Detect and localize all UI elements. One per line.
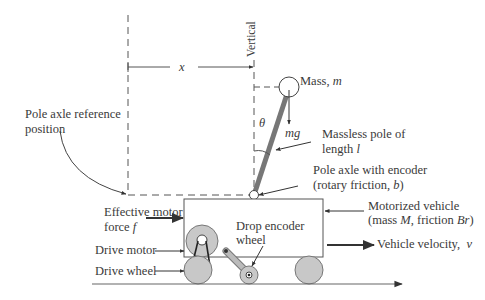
reference-leader [60,131,126,194]
pole-axle-label: Pole axle with encoder (rotary friction,… [313,163,427,193]
inverted-pendulum-diagram [0,0,485,300]
theta-label: θ [259,117,265,130]
encoder-pivot [224,249,228,253]
rear-wheel [295,256,323,284]
effective-motor-force-label: Effective motor force f [104,205,183,235]
drive-wheel [184,256,212,284]
mg-label: mg [285,127,300,140]
motorized-vehicle-label: Motorized vehicle (mass M, friction Br) [368,199,474,227]
vehicle-velocity-label: Vehicle velocity, v [377,238,472,251]
drop-encoder-label: Drop encoder wheel [236,219,304,247]
pole-leader [276,142,311,150]
pole [254,88,289,195]
drive-motor-label: Drive motor [95,244,156,257]
vertical-label: Vertical [245,21,257,57]
x-label: x [179,61,185,74]
pole-axle [250,191,259,200]
drive-motor-hub [197,235,207,245]
drive-wheel-label: Drive wheel [95,265,156,278]
encoder-hub-dot [248,274,251,277]
reference-position-label: Pole axle reference position [25,107,121,137]
mass-label: Mass, m [300,75,342,88]
axle-leader [259,186,298,195]
massless-pole-label: Massless pole of length l [322,127,405,157]
